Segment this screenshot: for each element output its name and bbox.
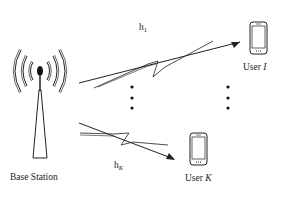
user-i-label: User I xyxy=(243,62,267,72)
channel-subscript: 1 xyxy=(144,26,147,33)
channel-link-hk xyxy=(79,123,175,160)
smartphone-icon xyxy=(190,133,207,165)
channel-label-h1: h1 xyxy=(139,22,147,33)
user-text: User xyxy=(185,173,205,183)
base-station-label: Base Station xyxy=(10,172,58,182)
user-index: K xyxy=(205,173,211,183)
ellipsis-dots-middle xyxy=(130,85,133,109)
user-index: I xyxy=(263,62,266,72)
channel-label-hk: hK xyxy=(114,160,123,171)
antenna-tower-icon xyxy=(13,49,67,158)
base-station-text: Base Station xyxy=(10,172,58,182)
smartphone-icon xyxy=(250,22,267,54)
user-k-label: User K xyxy=(185,173,212,183)
channel-link-h1 xyxy=(79,41,240,88)
user-text: User xyxy=(243,62,263,72)
channel-subscript: K xyxy=(119,164,123,171)
ellipsis-dots-right xyxy=(226,85,229,109)
